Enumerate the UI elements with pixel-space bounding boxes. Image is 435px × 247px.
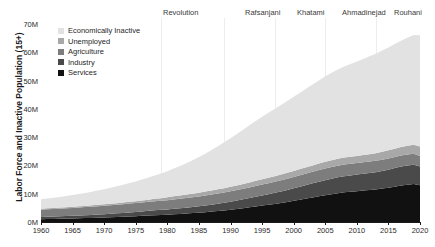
legend-item: Unemployed	[58, 37, 140, 46]
x-tick-label: 1980	[159, 226, 176, 235]
legend-swatch-icon	[58, 70, 64, 76]
y-tick-label: 30M	[8, 133, 38, 142]
legend-label: Economically Inactive	[68, 26, 140, 35]
legend-swatch-icon	[58, 59, 64, 65]
legend-item: Agriculture	[58, 47, 140, 56]
x-tick-label: 1975	[127, 226, 144, 235]
x-tick-mark	[420, 222, 421, 225]
y-tick-label: 20M	[8, 161, 38, 170]
legend-label: Services	[68, 68, 97, 77]
x-axis-line	[41, 222, 420, 223]
y-tick-label: 50M	[8, 76, 38, 85]
y-axis-tick-labels: 0M10M20M30M40M50M60M70M	[8, 0, 38, 247]
x-tick-label: 1995	[254, 226, 271, 235]
legend-swatch-icon	[58, 49, 64, 55]
era-label: Khatami	[297, 8, 325, 17]
x-tick-label: 1990	[222, 226, 239, 235]
x-tick-label: 2000	[285, 226, 302, 235]
legend-item: Services	[58, 68, 140, 77]
x-tick-label: 2010	[348, 226, 365, 235]
x-tick-label: 1985	[191, 226, 208, 235]
y-tick-label: 60M	[8, 48, 38, 57]
y-tick-label: 10M	[8, 189, 38, 198]
era-label: Ahmadinejad	[342, 8, 386, 17]
y-tick-label: 70M	[8, 20, 38, 29]
legend-label: Agriculture	[68, 47, 104, 56]
era-label: Rouhani	[394, 8, 422, 17]
legend-label: Industry	[68, 58, 95, 67]
x-tick-label: 2005	[317, 226, 334, 235]
legend: Economically InactiveUnemployedAgricultu…	[58, 26, 140, 77]
x-tick-label: 1970	[96, 226, 113, 235]
x-tick-label: 2015	[380, 226, 397, 235]
x-tick-label: 1965	[64, 226, 81, 235]
legend-item: Industry	[58, 58, 140, 67]
legend-item: Economically Inactive	[58, 26, 140, 35]
x-tick-label: 1960	[33, 226, 50, 235]
legend-label: Unemployed	[68, 37, 110, 46]
era-label: Rafsanjani	[245, 8, 280, 17]
y-tick-label: 40M	[8, 104, 38, 113]
legend-swatch-icon	[58, 38, 64, 44]
chart-container: Labor Force and Inactive Population (15+…	[0, 0, 435, 247]
x-tick-label: 2020	[412, 226, 429, 235]
era-label: Revolution	[163, 8, 198, 17]
legend-swatch-icon	[58, 28, 64, 34]
